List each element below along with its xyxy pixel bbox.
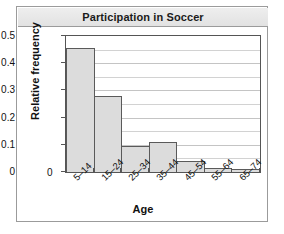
y-tick-label: 0.5	[0, 30, 15, 41]
x-tick-mark	[148, 168, 149, 172]
plot-area	[65, 35, 261, 173]
y-tick-label: 0.3	[0, 84, 15, 95]
y-tick-mark	[61, 144, 65, 145]
bar-series	[66, 36, 260, 172]
bar	[66, 48, 95, 172]
y-tick-label: 0.1	[0, 138, 15, 149]
y-tick-label: 0.4	[0, 57, 15, 68]
y-tick-label: 0	[0, 166, 15, 177]
x-axis-title: Age	[17, 203, 269, 215]
x-axis-ticks: 5–1415–2425–3435–4445–5455–6465–74	[65, 173, 261, 203]
y-axis-title: Relative frequency	[29, 11, 41, 131]
y-tick-mark	[61, 62, 65, 63]
y-axis-origin-label: 0	[47, 167, 53, 178]
chart-title-bar: Participation in Soccer	[18, 8, 268, 27]
y-tick-mark	[61, 117, 65, 118]
chart-figure: Participation in Soccer Relative frequen…	[16, 6, 268, 222]
page-title: Participation in Soccer	[82, 11, 204, 23]
y-tick-label: 0.2	[0, 111, 15, 122]
y-tick-mark	[61, 89, 65, 90]
x-tick-mark	[231, 168, 232, 172]
x-tick-mark	[259, 168, 260, 172]
y-tick-mark	[61, 35, 65, 36]
x-tick-mark	[176, 168, 177, 172]
y-tick-mark	[61, 171, 65, 172]
